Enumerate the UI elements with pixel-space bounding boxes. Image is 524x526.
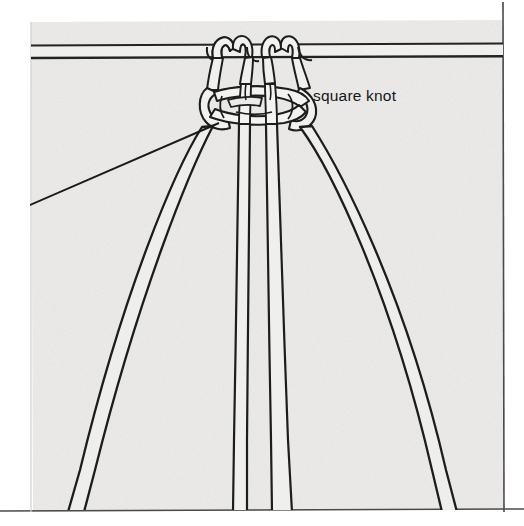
scanned-page: square knot bbox=[0, 0, 524, 526]
plate-right-edge bbox=[503, 2, 504, 512]
macrame-square-knot-drawing: square knot bbox=[0, 0, 524, 526]
figure-illustration: square knot bbox=[0, 0, 524, 526]
square-knot-label: square knot bbox=[313, 87, 397, 104]
scan-plate bbox=[0, 2, 524, 512]
